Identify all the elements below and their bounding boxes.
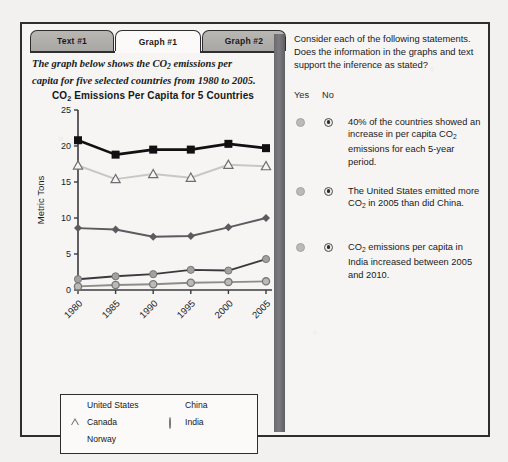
svg-text:20: 20 xyxy=(61,141,71,151)
statement-row-2: The United States emitted more CO2 in 20… xyxy=(294,185,484,225)
intro-line2: capita for five selected countries from … xyxy=(32,75,256,86)
statement-row-1: 40% of the countries showed an increase … xyxy=(294,116,484,169)
filled-square-icon xyxy=(71,401,80,410)
chart-title-a: CO xyxy=(52,90,67,101)
tab-text-1[interactable]: Text #1 xyxy=(30,30,114,51)
radio-no-3[interactable] xyxy=(324,243,333,252)
radio-yes-2[interactable] xyxy=(296,187,305,196)
statement-text-1: 40% of the countries showed an increase … xyxy=(348,116,484,169)
legend-item-united-states: United States xyxy=(71,400,139,410)
prompt-text: Consider each of the following statement… xyxy=(294,32,484,72)
legend-item-canada: Canada xyxy=(71,417,117,427)
svg-text:2000: 2000 xyxy=(212,298,235,321)
chart-title: CO2 Emissions Per Capita for 5 Countries xyxy=(28,90,278,103)
no-column-label: No xyxy=(322,90,334,100)
dark-diamond-icon xyxy=(71,435,80,444)
legend-item-norway: Norway xyxy=(71,434,116,444)
legend-label-india: India xyxy=(185,417,204,427)
question-panel: Text #1 Graph #1 Graph #2 The graph belo… xyxy=(20,22,490,437)
legend-label-norway: Norway xyxy=(87,434,116,444)
svg-text:25: 25 xyxy=(61,105,71,115)
svg-text:0: 0 xyxy=(66,285,71,295)
gray-circle-icon xyxy=(169,401,178,410)
chart-title-b: Emissions Per Capita for 5 Countries xyxy=(71,90,254,101)
chart: CO2 Emissions Per Capita for 5 Countries… xyxy=(28,90,278,370)
tab-graph-1-label: Graph #1 xyxy=(139,37,177,47)
active-tab-notch xyxy=(115,51,193,53)
radio-yes-1[interactable] xyxy=(296,118,305,127)
intro-line1-b: emissions per xyxy=(171,58,232,69)
question-column: Consider each of the following statement… xyxy=(294,32,484,281)
statement-text-3: CO2 emissions per capita in India increa… xyxy=(348,241,484,281)
radio-no-2[interactable] xyxy=(324,187,333,196)
tab-text-1-label: Text #1 xyxy=(57,36,87,46)
chart-legend: United States Canada Norway China India xyxy=(60,394,258,454)
open-triangle-icon xyxy=(71,418,80,427)
svg-text:1990: 1990 xyxy=(137,298,160,321)
legend-label-canada: Canada xyxy=(87,417,117,427)
svg-text:5: 5 xyxy=(66,249,71,259)
legend-label-china: China xyxy=(185,400,207,410)
radio-no-1[interactable] xyxy=(324,118,333,127)
legend-item-india: India xyxy=(169,417,204,427)
intro-text: The graph below shows the CO2 emissions … xyxy=(32,57,276,88)
svg-text:1985: 1985 xyxy=(99,298,122,321)
tab-graph-1[interactable]: Graph #1 xyxy=(115,30,201,53)
intro-line1-a: The graph below shows the CO xyxy=(32,58,167,69)
svg-text:1980: 1980 xyxy=(62,298,85,321)
legend-label-united-states: United States xyxy=(87,400,139,410)
svg-text:Metric Tons: Metric Tons xyxy=(35,176,46,225)
yes-no-header: YesNo xyxy=(294,90,484,100)
svg-text:10: 10 xyxy=(61,213,71,223)
chart-plot: 0510152025Metric Tons1980198519901995200… xyxy=(28,104,278,364)
svg-text:1995: 1995 xyxy=(174,298,197,321)
ringed-circle-icon xyxy=(169,418,178,427)
yes-column-label: Yes xyxy=(294,90,322,100)
statement-row-3: CO2 emissions per capita in India increa… xyxy=(294,241,484,281)
legend-item-china: China xyxy=(169,400,207,410)
tab-graph-2-label: Graph #2 xyxy=(225,36,263,46)
svg-text:2005: 2005 xyxy=(250,298,273,321)
svg-text:15: 15 xyxy=(61,177,71,187)
vertical-divider xyxy=(274,34,285,432)
radio-yes-3[interactable] xyxy=(296,243,305,252)
statement-text-2: The United States emitted more CO2 in 20… xyxy=(348,185,484,213)
